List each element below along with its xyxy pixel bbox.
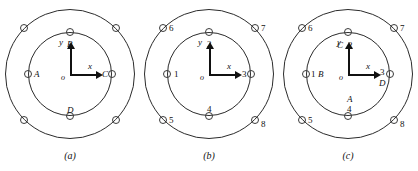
x-axis-line (348, 74, 374, 76)
outer-marker-top-left (20, 24, 28, 32)
y-axis-arrow-icon (345, 42, 353, 49)
label-4: 4 (207, 105, 212, 114)
label-A: A (347, 95, 353, 104)
y-axis-line (348, 48, 350, 74)
outer-marker-top-right (112, 24, 120, 32)
y-axis-label: y (337, 38, 341, 47)
inner-marker-right (108, 70, 116, 78)
outer-marker-bottom-left (20, 116, 28, 124)
y-axis-label: y (59, 38, 63, 47)
outer-marker-top-left (159, 24, 167, 32)
label-5: 5 (169, 116, 174, 125)
x-axis-label: x (227, 62, 231, 71)
y-axis-line (70, 48, 72, 74)
x-axis-label: x (366, 62, 370, 71)
x-axis-line (70, 74, 96, 76)
label-B: B (318, 70, 324, 79)
y-axis-label: y (198, 38, 202, 47)
y-axis-arrow-icon (206, 42, 214, 49)
diagram-c: 6 7 8 5 2 3 4 1 C D A B x y o (282, 8, 414, 140)
y-axis-line (209, 48, 211, 74)
panel-caption-c: (c) (278, 150, 418, 161)
diagram-a: B C D A x y o (4, 8, 136, 140)
label-4: 4 (347, 105, 352, 114)
label-3: 3 (242, 70, 247, 79)
diagram-b: 6 7 8 5 2 3 4 1 x y o (143, 8, 275, 140)
label-A: A (34, 70, 40, 79)
panel-caption-a: (a) (0, 150, 140, 161)
panel-b: 6 7 8 5 2 3 4 1 x y o (b) (139, 0, 279, 171)
x-axis-arrow-icon (235, 71, 242, 79)
label-6: 6 (169, 24, 174, 33)
y-axis-arrow-icon (67, 42, 75, 49)
label-D: D (67, 106, 74, 115)
outer-marker-bottom-right (251, 116, 259, 124)
outer-marker-top-right (390, 24, 398, 32)
outer-marker-bottom-left (159, 116, 167, 124)
inner-marker-top (205, 28, 213, 36)
outer-marker-top-left (298, 24, 306, 32)
outer-marker-bottom-right (112, 116, 120, 124)
label-7: 7 (400, 24, 405, 33)
origin-label: o (61, 73, 65, 82)
inner-marker-top (66, 28, 74, 36)
origin-label: o (339, 73, 343, 82)
outer-marker-top-right (251, 24, 259, 32)
panel-c: 6 7 8 5 2 3 4 1 C D A B x y o (c) (278, 0, 418, 171)
x-axis-label: x (88, 62, 92, 71)
label-6: 6 (308, 24, 313, 33)
inner-marker-left (24, 70, 32, 78)
label-8: 8 (400, 120, 405, 129)
label-1: 1 (174, 70, 179, 79)
label-7: 7 (261, 24, 266, 33)
origin-label: o (200, 73, 204, 82)
inner-marker-left (163, 70, 171, 78)
inner-marker-right (247, 70, 255, 78)
panel-a: B C D A x y o (a) (0, 0, 140, 171)
label-D: D (379, 79, 386, 88)
panel-caption-b: (b) (139, 150, 279, 161)
inner-marker-top (344, 28, 352, 36)
inner-marker-right (386, 70, 394, 78)
inner-marker-left (302, 70, 310, 78)
outer-marker-bottom-left (298, 116, 306, 124)
x-axis-arrow-icon (374, 71, 381, 79)
x-axis-line (209, 74, 235, 76)
figure-three-panel-circles: B C D A x y o (a) (0, 0, 418, 171)
x-axis-arrow-icon (96, 71, 103, 79)
label-5: 5 (308, 116, 313, 125)
label-8: 8 (261, 120, 266, 129)
label-1: 1 (311, 70, 316, 79)
outer-marker-bottom-right (390, 116, 398, 124)
